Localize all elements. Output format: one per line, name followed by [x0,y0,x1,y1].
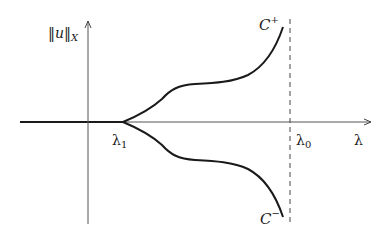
upper-branch-curve [123,27,283,122]
lower-branch-label: C− [260,208,280,228]
x-axis-label: λ [354,132,363,148]
upper-branch-label: C+ [259,14,279,34]
lambda1-label: λ1 [112,132,127,150]
bifurcation-diagram: ‖u‖X λ1 λ0 λ C+ C− [0,0,388,239]
lower-branch-curve [123,122,283,217]
y-axis-label: ‖u‖X [48,25,79,43]
lambda0-label: λ0 [296,132,311,150]
